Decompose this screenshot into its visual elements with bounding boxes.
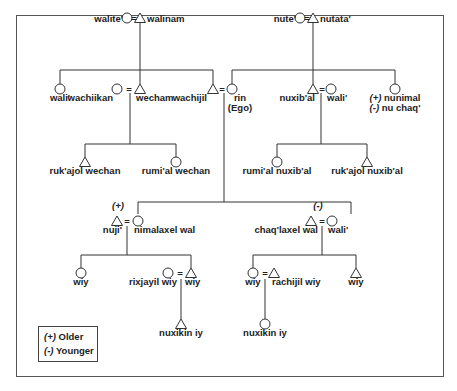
- kin-term-wali-3: wali': [327, 224, 348, 235]
- kin-term-rumial-nuxibal: rumi'al nuxib'al: [243, 165, 312, 176]
- term-text: nimalaxel wal: [134, 224, 195, 235]
- kin-term-walite: walite': [93, 13, 123, 24]
- marriage-sign: =: [219, 84, 225, 95]
- term-text: wiy: [244, 276, 261, 287]
- kin-term-wiy-1: wiy: [72, 276, 89, 287]
- term-text: nute': [274, 13, 296, 24]
- kin-term-nimalaxel-wal: nimalaxel wal: [134, 224, 195, 235]
- kin-term-chaqlaxel-wal: chaq'laxel wal: [254, 224, 318, 235]
- term-text: nuxib'al: [279, 92, 315, 103]
- term-text: wiy: [72, 276, 89, 287]
- male-triangle-icon: [208, 84, 219, 94]
- kin-term-nute: nute': [274, 13, 296, 24]
- marriage-sign: =: [262, 268, 268, 279]
- legend-item-older: (+) Older: [44, 330, 97, 344]
- line-nutata-children: [232, 23, 395, 84]
- kin-term-wachijil: wachijil: [172, 92, 207, 103]
- term-text: wali': [327, 224, 348, 235]
- term-text: nuxikin iy: [243, 327, 288, 338]
- kin-term-wecham: wecham: [135, 92, 174, 103]
- marriage-sign: =: [304, 13, 310, 24]
- female-circle-icon: [112, 84, 122, 94]
- kin-term-rukajol-nuxibal: ruk'ajol nuxib'al: [331, 165, 403, 176]
- marriage-sign: =: [131, 13, 137, 24]
- term-text: nutata': [320, 13, 351, 24]
- ego-note: (Ego): [228, 102, 252, 113]
- term-text: wiy: [347, 276, 364, 287]
- kin-term-rixjayil-wiy: rixjayil wiy: [129, 276, 178, 287]
- term-text: wiy: [184, 276, 201, 287]
- age-prefix: (-): [370, 102, 382, 113]
- term-text: nu chaq': [382, 102, 421, 113]
- marriage-sign: =: [177, 268, 183, 279]
- kin-term-wiy-2: wiy: [184, 276, 201, 287]
- legend-label: Older: [59, 331, 84, 342]
- kin-term-wachiikan: wachiikan: [67, 92, 114, 103]
- term-text: wachiikan: [67, 92, 114, 103]
- legend: (+) Older (-) Younger: [38, 326, 98, 362]
- marriage-sign: =: [319, 84, 325, 95]
- kin-term-walinam: walinam: [146, 13, 185, 24]
- term-text: wachijil: [172, 92, 207, 103]
- kin-term-nuji: nuji': [103, 224, 122, 235]
- term-text: wecham: [135, 92, 174, 103]
- term-text: ruk'ajol wechan: [50, 165, 121, 176]
- legend-label: Younger: [56, 345, 94, 356]
- kin-term-nuxikin-iy-1: nuxikin iy: [159, 327, 204, 338]
- kin-term-wiy-3: wiy: [244, 276, 261, 287]
- kin-term-wali-2: wali': [326, 92, 347, 103]
- line-walinam-children: [60, 23, 213, 84]
- marriage-sign: =: [319, 216, 325, 227]
- kin-term-wiy-4: wiy: [347, 276, 364, 287]
- kin-term-alt: (-) nu chaq': [370, 102, 421, 113]
- kin-term-rukajol-wechan: ruk'ajol wechan: [50, 165, 121, 176]
- term-text: chaq'laxel wal: [254, 224, 318, 235]
- kin-term-rumial-wechan: rumi'al wechan: [142, 165, 210, 176]
- term-text: nuxikin iy: [159, 327, 204, 338]
- age-marker: (-): [313, 200, 323, 211]
- kin-term-nuxikin-iy-2: nuxikin iy: [243, 327, 288, 338]
- legend-item-younger: (-) Younger: [44, 344, 97, 358]
- legend-sign: (-): [44, 345, 54, 356]
- term-text: nuji': [103, 224, 122, 235]
- kin-term-nutata: nutata': [320, 13, 351, 24]
- term-text: rumi'al nuxib'al: [243, 165, 312, 176]
- age-marker: (+): [112, 200, 124, 211]
- kin-term-rachijil-wiy: rachijil wiy: [272, 276, 321, 287]
- term-text: ruk'ajol nuxib'al: [331, 165, 403, 176]
- term-text: wali': [326, 92, 347, 103]
- marriage-sign: =: [124, 216, 130, 227]
- term-text: rachijil wiy: [272, 276, 321, 287]
- term-text: rumi'al wechan: [142, 165, 210, 176]
- term-text: rixjayil wiy: [129, 276, 178, 287]
- marriage-sign: =: [126, 84, 132, 95]
- legend-sign: (+): [44, 331, 56, 342]
- term-text: walinam: [146, 13, 185, 24]
- term-text: walite': [93, 13, 123, 24]
- kin-term-nuxibal: nuxib'al: [279, 92, 315, 103]
